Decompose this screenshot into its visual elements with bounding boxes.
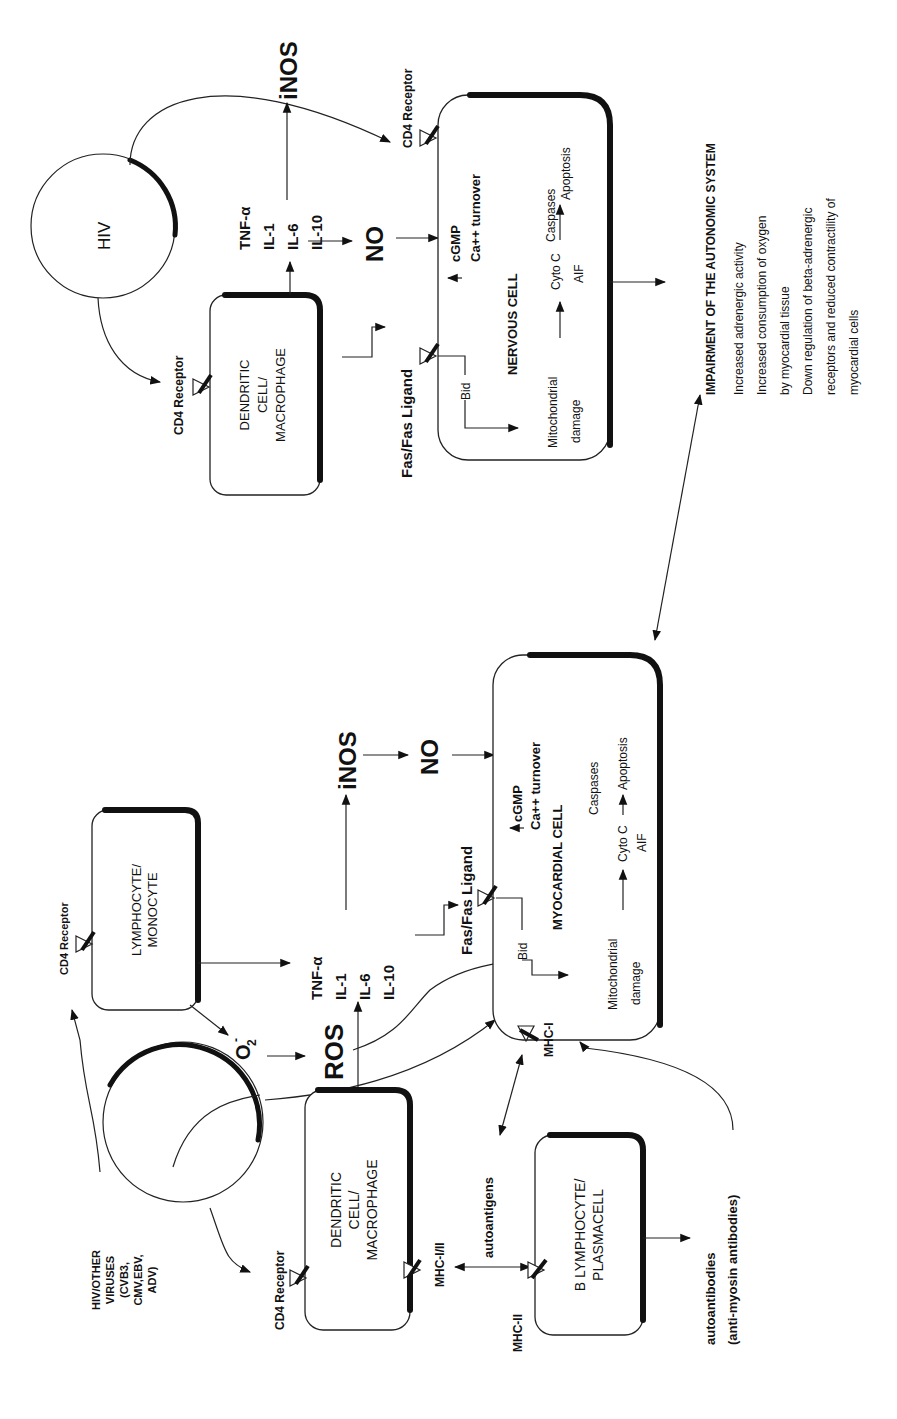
svg-text:AIF: AIF (572, 264, 586, 283)
impairment-block: IMPAIRMENT OF THE AUTONOMIC SYSTEM Incre… (704, 143, 861, 395)
bid-label-nervous: Bid (459, 383, 473, 400)
impairment-line: by myocardial tissue (778, 286, 792, 395)
impairment-title: IMPAIRMENT OF THE AUTONOMIC SYSTEM (704, 143, 718, 395)
autoantigens-label: autoantigens (481, 1177, 496, 1258)
svg-text:HIV/OTHER: HIV/OTHER (90, 1250, 102, 1310)
svg-text:cGMP: cGMP (448, 225, 463, 262)
svg-text:Apoptosis: Apoptosis (559, 147, 573, 200)
svg-text:DENDRITIC: DENDRITIC (328, 1172, 344, 1248)
svg-text:NERVOUS CELL: NERVOUS CELL (505, 273, 520, 375)
svg-text:damage: damage (569, 399, 583, 443)
impairment-line: Increased adrenergic activity (732, 242, 746, 395)
cd4-receptor-dendritic-top: CD4 Receptor (172, 355, 211, 435)
svg-text:AIF: AIF (635, 833, 649, 852)
cytokines-bottom: TNF-α IL-1 IL-6 IL-10 (308, 956, 397, 1000)
svg-text:IL-10: IL-10 (380, 965, 397, 1000)
svg-text:CD4 Receptor: CD4 Receptor (273, 1250, 287, 1330)
svg-text:LYMPHOCYTE/: LYMPHOCYTE/ (129, 864, 144, 957)
impairment-line: Down regulation of beta-adrenergic (801, 208, 815, 395)
svg-text:Cyto C: Cyto C (616, 825, 630, 862)
svg-text:B LYMPHOCYTE/: B LYMPHOCYTE/ (572, 1179, 588, 1292)
svg-text:CD4 Receptor: CD4 Receptor (172, 355, 186, 435)
lymphocyte-box: LYMPHOCYTE/ MONOCYTE (92, 810, 198, 1010)
cd4-receptor-nervous: CD4 Receptor (401, 68, 438, 148)
arrow-il10-top-to-fas (342, 327, 385, 357)
b-lymphocyte-box: B LYMPHOCYTE/ PLASMACELL (535, 1135, 643, 1335)
impairment-line: receptors and reduced contractility of (824, 198, 838, 395)
virus-circle (103, 1042, 263, 1202)
svg-text:IL-1: IL-1 (260, 223, 277, 250)
svg-text:Caspases: Caspases (587, 762, 601, 815)
svg-text:IL-6: IL-6 (284, 223, 301, 250)
svg-text:Mitochondrial: Mitochondrial (546, 377, 560, 448)
svg-text:Mitochondrial: Mitochondrial (606, 939, 620, 1010)
svg-text:HIV: HIV (95, 221, 114, 250)
svg-text:MACROPHAGE: MACROPHAGE (273, 348, 288, 442)
impairment-line: myocardial cells (847, 310, 861, 395)
cd4-receptor-dendritic-bottom: CD4 Receptor (273, 1250, 308, 1330)
no-label-bottom: NO (416, 739, 443, 775)
cd4-receptor-lymphocyte: CD4 Receptor (58, 902, 94, 975)
svg-text:(anti-myosin antibodies): (anti-myosin antibodies) (725, 1195, 740, 1345)
o2-label: O 2 - (229, 1038, 259, 1060)
svg-text:Apoptosis: Apoptosis (616, 737, 630, 790)
svg-text:IL-6: IL-6 (356, 973, 373, 1000)
svg-text:MONOCYTE: MONOCYTE (145, 872, 160, 947)
svg-text:CMV,EBV,: CMV,EBV, (132, 1254, 144, 1305)
svg-text:MACROPHAGE: MACROPHAGE (364, 1159, 380, 1260)
svg-text:CELL/: CELL/ (255, 377, 270, 414)
cytokines-top: TNF-α IL-1 IL-6 IL-10 (236, 206, 325, 250)
svg-text:IL-10: IL-10 (308, 215, 325, 250)
arrow-hiv-to-dendritic (98, 298, 160, 382)
svg-text:Ca++ turnover: Ca++ turnover (528, 742, 543, 830)
inos-label-bottom: iNOS (334, 731, 361, 790)
svg-text:CD4 Receptor: CD4 Receptor (58, 902, 70, 975)
svg-text:damage: damage (629, 961, 643, 1005)
svg-text:Cyto C: Cyto C (549, 253, 563, 290)
arrow-virus-to-dendritic (210, 1208, 250, 1272)
svg-text:Ca++ turnover: Ca++ turnover (468, 174, 483, 262)
arrow-autoantibodies-to-myocardial (580, 1042, 733, 1130)
ros-label: ROS (319, 1024, 349, 1080)
inos-label-top: iNOS (275, 41, 302, 100)
fas-label-top: Fas/Fas Ligand (398, 369, 415, 478)
svg-text:MHC-II: MHC-II (511, 1314, 525, 1352)
svg-text:Caspases: Caspases (544, 189, 558, 242)
hiv-circle: HIV (31, 154, 175, 298)
svg-text:-: - (229, 1038, 243, 1042)
svg-text:ADV): ADV) (146, 1266, 158, 1293)
fas-receptor-nervous (420, 344, 438, 364)
arrow-autoantigens-myocardial (500, 1055, 522, 1135)
pathogenesis-diagram: HIV/OTHER VIRUSES (CVB3, CMV,EBV, ADV) L… (0, 0, 897, 1419)
svg-text:VIRUSES: VIRUSES (104, 1256, 116, 1304)
svg-text:CELL/: CELL/ (346, 1190, 362, 1229)
svg-text:autoantibodies: autoantibodies (703, 1253, 718, 1345)
bid-label-myocardial: Bid (516, 943, 530, 960)
dendritic-box-top: DENDRITIC CELL/ MACROPHAGE (210, 295, 320, 495)
svg-text:TNF-α: TNF-α (236, 206, 253, 250)
svg-text:MHC-I: MHC-I (542, 1022, 556, 1057)
arrow-lymphocyte-to-o2 (190, 1005, 228, 1035)
svg-text:PLASMACELL: PLASMACELL (590, 1189, 606, 1281)
svg-text:IL-1: IL-1 (332, 973, 349, 1000)
arrow-il10-to-fas (415, 905, 458, 935)
svg-text:CD4 Receptor: CD4 Receptor (401, 68, 415, 148)
dendritic-box-bottom: DENDRITIC CELL/ MACROPHAGE (305, 1090, 410, 1330)
svg-text:TNF-α: TNF-α (308, 956, 325, 1000)
svg-text:MYOCARDIAL CELL: MYOCARDIAL CELL (550, 805, 565, 930)
svg-text:DENDRITIC: DENDRITIC (237, 360, 252, 431)
arrow-hiv-to-nervous (130, 96, 390, 165)
impairment-line: Increased consumption of oxygen (755, 216, 769, 395)
fas-label-bottom: Fas/Fas Ligand (458, 846, 475, 955)
arrow-virus-to-lymphocyte (72, 1010, 100, 1172)
arrow-myocardial-impairment (655, 395, 700, 640)
svg-text:(CVB3,: (CVB3, (118, 1262, 130, 1298)
svg-text:cGMP: cGMP (510, 785, 525, 822)
virus-label: HIV/OTHER VIRUSES (CVB3, CMV,EBV, ADV) (90, 1250, 158, 1310)
no-label-top: NO (361, 226, 388, 262)
svg-text:2: 2 (245, 1039, 259, 1046)
svg-text:MHC-I/II: MHC-I/II (433, 1242, 447, 1287)
autoantibodies-label: autoantibodies (anti-myosin antibodies) (703, 1195, 740, 1345)
